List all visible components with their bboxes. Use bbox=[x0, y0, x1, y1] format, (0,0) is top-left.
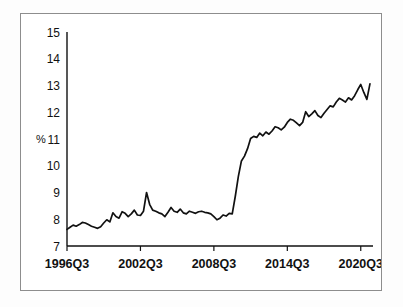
data-series bbox=[67, 84, 370, 230]
y-tick-label: 7 bbox=[53, 240, 60, 254]
chart-frame: 789101112131415 1996Q32002Q32008Q32014Q3… bbox=[20, 13, 382, 291]
chart-figure: 789101112131415 1996Q32002Q32008Q32014Q3… bbox=[0, 0, 403, 307]
y-tick-label: 8 bbox=[53, 213, 60, 227]
x-tick-label: 2020Q3 bbox=[339, 257, 381, 271]
y-axis-unit-label: % bbox=[36, 133, 46, 145]
y-tick-label: 11 bbox=[48, 133, 61, 147]
y-tick-label: 9 bbox=[53, 186, 60, 200]
x-tick-label: 1996Q3 bbox=[45, 257, 90, 271]
y-tick-label: 10 bbox=[47, 159, 61, 173]
y-tick-label: 13 bbox=[47, 79, 61, 93]
y-tick-label: 14 bbox=[47, 52, 61, 66]
x-axis: 1996Q32002Q32008Q32014Q32020Q3 bbox=[45, 246, 381, 271]
x-tick-label: 2008Q3 bbox=[192, 257, 237, 271]
x-tick-label: 2002Q3 bbox=[118, 257, 163, 271]
series-line-ratio bbox=[67, 84, 370, 230]
y-tick-label: 15 bbox=[47, 26, 61, 40]
y-tick-label: 12 bbox=[47, 106, 61, 120]
x-tick-label: 2014Q3 bbox=[265, 257, 310, 271]
y-axis: 789101112131415 bbox=[47, 26, 67, 254]
line-chart-plot: 789101112131415 1996Q32002Q32008Q32014Q3… bbox=[21, 14, 381, 290]
